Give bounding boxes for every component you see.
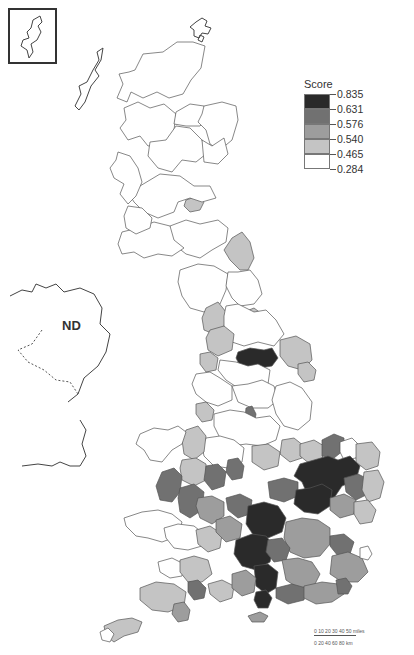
legend-swatch-class-4: [304, 109, 330, 124]
region-durham: [226, 270, 262, 306]
region-lincolnshire: [272, 382, 312, 430]
region-portsmouth: [254, 590, 272, 608]
legend-tick: [330, 124, 336, 125]
legend-break-label: 0.835: [337, 88, 363, 100]
legend-body: 0.835 0.631 0.576 0.540 0.465 0.284: [304, 94, 404, 186]
region-oxford: [246, 502, 286, 538]
scotland: [110, 42, 238, 258]
region-shropshire: [182, 426, 206, 460]
legend-tick: [330, 139, 336, 140]
scale-line: [314, 635, 356, 639]
region-ribble: [206, 326, 234, 356]
legend-break-label: 0.284: [337, 163, 363, 175]
shetland-inset: [8, 8, 57, 64]
region-dorset: [208, 580, 234, 602]
region-suffolk-coast: [362, 470, 384, 502]
region-essex-north: [330, 494, 356, 518]
region-essex-east: [354, 500, 376, 524]
region-sussex-west: [276, 584, 306, 604]
ireland-border: [18, 330, 78, 394]
region-hereford: [180, 458, 206, 486]
region-highland: [117, 42, 205, 102]
scale-bar: 0 10 20 30 40 50 miles 0 20 40 60 80 km: [314, 628, 404, 646]
northern-ireland-outline: [10, 284, 110, 402]
region-malvern: [204, 464, 226, 490]
region-bedford: [268, 478, 298, 502]
legend-break-label: 0.576: [337, 118, 363, 130]
shetland-outline: [10, 10, 55, 62]
region-lancashire-s: [200, 352, 218, 372]
legend-tick: [330, 109, 336, 110]
region-somerset: [180, 556, 212, 582]
region-herts: [294, 484, 332, 514]
region-exeter: [172, 602, 190, 622]
legend-swatch-class-5: [304, 94, 330, 109]
region-leicester: [252, 444, 280, 470]
scale-km: 0 20 40 60 80 km: [314, 640, 404, 646]
legend-swatch-class-1: [304, 154, 330, 169]
region-hampshire: [232, 570, 256, 596]
region-cheshire: [196, 402, 214, 422]
scale-miles: 0 10 20 30 40 50 miles: [314, 628, 404, 634]
region-london: [284, 518, 330, 558]
region-hampshire-north: [254, 564, 278, 594]
region-anglesey-gwynedd: [136, 426, 186, 462]
hebrides-outline: [75, 48, 103, 110]
legend-break-label: 0.465: [337, 148, 363, 160]
nd-label: ND: [62, 318, 81, 333]
region-hull: [298, 362, 316, 382]
legend-break-label: 0.540: [337, 133, 363, 145]
region-thanet: [360, 546, 372, 560]
legend-swatch-class-2: [304, 139, 330, 154]
ireland-east-coast: [22, 420, 86, 466]
midlands: [180, 372, 312, 490]
legend-tick: [330, 154, 336, 155]
orkney-outline: [190, 18, 211, 42]
legend-tick: [330, 94, 336, 95]
region-mendip: [188, 580, 206, 600]
legend-tick: [330, 169, 336, 170]
legend-swatch-class-3: [304, 124, 330, 139]
region-isle-of-wight: [248, 612, 268, 622]
legend-break-label: 0.631: [337, 103, 363, 115]
region-northumberland: [224, 232, 254, 270]
legend: Score 0.835 0.631 0.576 0.540 0.465 0.28…: [304, 78, 404, 186]
